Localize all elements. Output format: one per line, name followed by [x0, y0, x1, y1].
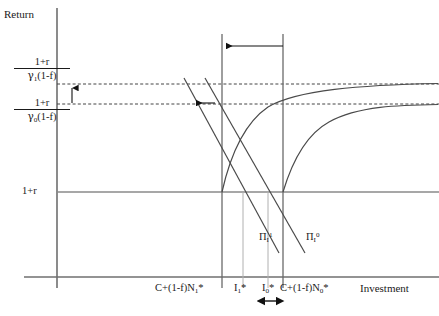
x-tick-i1-sup: * [241, 282, 246, 293]
diagram-canvas [0, 0, 439, 316]
pi-0-sup: 0 [316, 231, 320, 239]
y-tick-gamma1-denominator: γ1(1-f) [14, 69, 70, 83]
x-tick-c-plus-n0: C+(1-f)N0* [280, 283, 329, 295]
return-curve-1 [222, 84, 438, 193]
x-tick-c-plus-n1-main: C+(1-f)N [155, 282, 195, 293]
x-axis-title: Investment [360, 283, 409, 294]
return-curves [222, 84, 438, 193]
return-curve-0 [283, 105, 438, 193]
y-tick-one-plus-r: 1+r [22, 186, 37, 197]
economics-diagram: Return Investment 1+r γ1(1-f) 1+r γ0(1-f… [0, 0, 439, 316]
y-tick-gamma0-numerator: 1+r [14, 97, 70, 110]
pi-1-sup: 1 [269, 231, 273, 239]
gamma1-rest: (1-f) [37, 70, 56, 81]
curve-label-pi-I-1: ΠI1 [259, 232, 273, 244]
y-tick-gamma0-threshold: 1+r γ0(1-f) [14, 97, 70, 124]
x-tick-c-plus-n0-main: C+(1-f)N [280, 282, 320, 293]
axis-lines [24, 8, 439, 288]
x-tick-c-plus-n1-sup: * [198, 282, 203, 293]
y-tick-gamma0-denominator: γ0(1-f) [14, 110, 70, 124]
x-tick-c-plus-n0-sup: * [323, 282, 328, 293]
x-tick-c-plus-n1: C+(1-f)N1* [155, 283, 204, 295]
y-axis-title: Return [4, 9, 34, 20]
curve-label-pi-I-0: ΠI0 [306, 232, 320, 244]
pi-1-base: Π [259, 231, 267, 242]
pi-0-base: Π [306, 231, 314, 242]
y-tick-gamma1-threshold: 1+r γ1(1-f) [14, 56, 70, 83]
y-tick-gamma1-numerator: 1+r [14, 56, 70, 69]
x-tick-i0-sup: * [269, 282, 274, 293]
threshold-lines [57, 84, 439, 104]
gamma0-rest: (1-f) [37, 111, 56, 122]
x-tick-i1-star: I1* [234, 283, 246, 295]
x-tick-i0-star: I0* [262, 283, 274, 295]
